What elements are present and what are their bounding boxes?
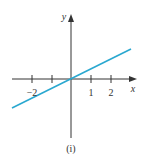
tick-label-neg2: −2 <box>27 87 38 98</box>
y-axis-arrow-icon <box>68 14 74 22</box>
tick-label-2: 2 <box>109 87 114 98</box>
tick-label-1: 1 <box>89 87 94 98</box>
x-axis-label: x <box>130 83 136 94</box>
x-axis-arrow-icon <box>129 76 137 82</box>
caption: (i) <box>66 143 75 154</box>
y-axis-label: y <box>61 11 67 22</box>
graph: −2 1 2 x y (i) <box>0 0 144 154</box>
